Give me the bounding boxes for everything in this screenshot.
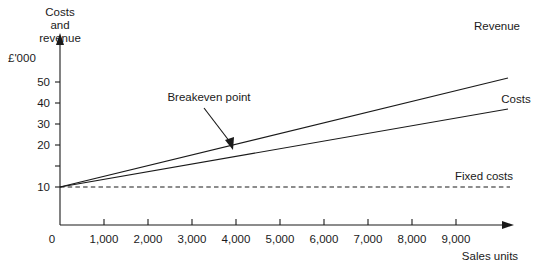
breakeven-arrowhead-icon [225, 137, 234, 150]
breakeven-label: Breakeven point [167, 91, 251, 103]
y-axis-title-line3: revenue [39, 32, 81, 44]
y-tick-label-30: 30 [37, 118, 50, 130]
x-axis-arrowhead-icon [502, 221, 514, 229]
costs-line [60, 109, 508, 187]
breakeven-arrow-line [204, 108, 230, 142]
x-tick-label-8000: 8,000 [398, 233, 427, 245]
x-tick-label-2000: 2,000 [134, 233, 163, 245]
breakeven-annotation: Breakeven point [167, 91, 251, 150]
y-tick-labels: 50 40 30 20 10 0 [37, 76, 55, 245]
y-axis-title-line2: and [50, 19, 69, 31]
y-tick-label-40: 40 [37, 97, 50, 109]
x-tick-label-4000: 4,000 [222, 233, 251, 245]
x-axis [60, 219, 514, 229]
y-tick-label-20: 20 [37, 139, 50, 151]
x-tick-label-3000: 3,000 [178, 233, 207, 245]
fixed-costs-label: Fixed costs [455, 170, 513, 182]
y-tick-label-50: 50 [37, 76, 50, 88]
axis-titles: Costs and revenue £'000 Sales units [8, 6, 518, 262]
y-tick-label-10: 10 [37, 181, 50, 193]
x-tick-label-9000: 9,000 [442, 233, 471, 245]
series-group [60, 78, 510, 187]
x-tick-label-6000: 6,000 [310, 233, 339, 245]
y-axis-title-line1: Costs [45, 6, 75, 18]
chart-canvas: 50 40 30 20 10 0 1,000 2,000 3,000 4,000… [0, 0, 553, 267]
costs-label: Costs [501, 93, 531, 105]
x-tick-label-7000: 7,000 [354, 233, 383, 245]
x-tick-label-1000: 1,000 [90, 233, 119, 245]
y-tick-label-0: 0 [49, 233, 55, 245]
revenue-label: Revenue [474, 20, 520, 32]
revenue-line [60, 78, 508, 187]
x-tick-label-5000: 5,000 [266, 233, 295, 245]
x-tick-labels: 1,000 2,000 3,000 4,000 5,000 6,000 7,00… [90, 233, 471, 245]
x-axis-title: Sales units [462, 250, 519, 262]
series-labels: Revenue Costs Fixed costs [455, 20, 531, 182]
breakeven-chart: 50 40 30 20 10 0 1,000 2,000 3,000 4,000… [0, 0, 553, 267]
y-axis-unit-label: £'000 [8, 52, 36, 64]
y-axis [55, 33, 64, 225]
